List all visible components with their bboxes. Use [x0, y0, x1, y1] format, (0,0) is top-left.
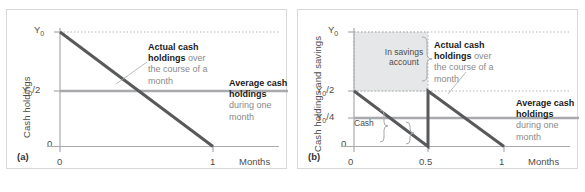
panel-a-average-callout: Average cash holdings during one month	[229, 78, 289, 123]
panel-a: Cash holdings Y0 Y0/2 0 0 1 Months	[6, 9, 287, 169]
panel-b: Cash holdings and savings Y0 Y0/2 Y0/4 0…	[297, 9, 578, 169]
figure-container: Cash holdings Y0 Y0/2 0 0 1 Months	[0, 0, 585, 192]
panel-b-savings-label: In savings account	[382, 47, 426, 67]
panel-a-label: (a)	[17, 151, 29, 162]
panel-b-plot	[298, 10, 579, 170]
panel-b-actual-callout: Actual cash holdings over the course of …	[434, 40, 506, 85]
panel-b-average-callout: Average cash holdings during one month	[516, 98, 578, 143]
panel-b-average-callout-rest: during one month	[516, 120, 559, 141]
panel-b-average-callout-bold: Average cash holdings	[516, 98, 574, 119]
panel-a-actual-callout: Actual cash holdings over the course of …	[148, 42, 220, 87]
panel-a-average-callout-bold: Average cash holdings	[229, 78, 287, 99]
panel-b-label: (b)	[308, 151, 320, 162]
panel-b-cash-label: Cash	[354, 118, 380, 128]
panel-a-average-callout-rest: during one month	[229, 100, 272, 121]
panel-a-callout-leader	[116, 62, 147, 84]
